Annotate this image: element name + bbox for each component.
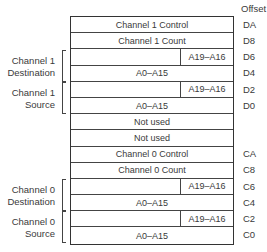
group-label-line1: Channel 1 [7, 55, 55, 67]
register-row: A0–A15 [71, 98, 233, 114]
register-cell: Channel 1 Control [71, 17, 233, 32]
offset-label: D4 [243, 67, 255, 78]
offset-label: C4 [243, 197, 255, 208]
bracket-icon [62, 50, 66, 82]
group-label-line2: Source [12, 228, 55, 240]
register-cell: Channel 0 Control [71, 147, 233, 162]
group-label-channel0-source: Channel 0 Source [12, 216, 55, 239]
register-row: Channel 1 Control [71, 17, 233, 33]
offset-label: D6 [243, 51, 255, 62]
register-cell: A0–A15 [71, 195, 233, 210]
group-label-line1: Channel 1 [12, 87, 55, 99]
group-label-line1: Channel 0 [12, 216, 55, 228]
register-cell: Channel 0 Count [71, 163, 233, 178]
register-row: Not used [71, 130, 233, 146]
register-cell: A0–A15 [71, 227, 233, 243]
register-cell: A0–A15 [71, 66, 233, 81]
group-label-channel0-destination: Channel 0 Destination [7, 184, 55, 207]
register-cell-high-address: A19–A16 [181, 82, 233, 97]
register-row: A19–A16 [71, 179, 233, 195]
offset-label: D0 [243, 100, 255, 111]
group-label-line2: Destination [7, 196, 55, 208]
register-row: A0–A15 [71, 195, 233, 211]
register-row: Channel 0 Count [71, 163, 233, 179]
bracket-icon [62, 82, 66, 114]
bracket-icon [62, 179, 66, 211]
register-cell-empty [71, 179, 181, 194]
register-row: A19–A16 [71, 49, 233, 65]
register-table: Channel 1 Control Channel 1 Count A19–A1… [70, 16, 234, 245]
register-cell: Not used [71, 130, 233, 145]
register-row: A19–A16 [71, 82, 233, 98]
offset-label: D8 [243, 35, 255, 46]
register-row: A0–A15 [71, 227, 233, 243]
group-label-line1: Channel 0 [7, 184, 55, 196]
register-row: Channel 0 Control [71, 147, 233, 163]
register-cell-empty [71, 211, 181, 226]
offset-label: DA [243, 19, 256, 30]
register-row: Not used [71, 114, 233, 130]
register-cell-empty [71, 82, 181, 97]
register-row: Channel 1 Count [71, 33, 233, 49]
register-cell: A0–A15 [71, 98, 233, 113]
offset-label: C0 [243, 229, 255, 240]
group-label-channel1-source: Channel 1 Source [12, 87, 55, 110]
register-cell: Not used [71, 114, 233, 129]
offset-header: Offset [241, 3, 266, 14]
register-row: A19–A16 [71, 211, 233, 227]
register-cell: Channel 1 Count [71, 33, 233, 48]
offset-label: C2 [243, 213, 255, 224]
register-cell-high-address: A19–A16 [181, 211, 233, 226]
group-label-channel1-destination: Channel 1 Destination [7, 55, 55, 78]
register-cell-high-address: A19–A16 [181, 49, 233, 64]
offset-label: CA [243, 148, 256, 159]
register-row: A0–A15 [71, 66, 233, 82]
group-label-line2: Source [12, 99, 55, 111]
register-cell-empty [71, 49, 181, 64]
offset-label: D2 [243, 84, 255, 95]
register-cell-high-address: A19–A16 [181, 179, 233, 194]
group-label-line2: Destination [7, 67, 55, 79]
bracket-icon [62, 211, 66, 243]
offset-label: C8 [243, 164, 255, 175]
offset-label: C6 [243, 181, 255, 192]
